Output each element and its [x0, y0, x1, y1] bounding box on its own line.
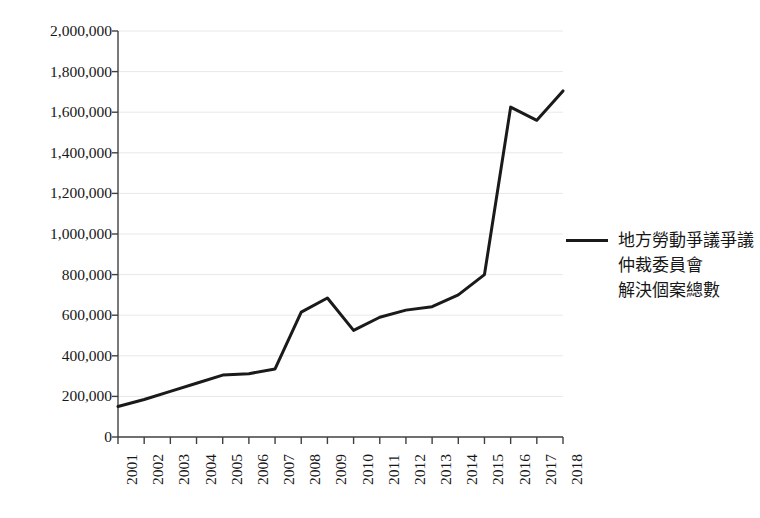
gridlines: [118, 31, 563, 396]
x-axis-ticks: [118, 437, 563, 444]
line-chart: 0200,000400,000600,000800,0001,000,0001,…: [0, 0, 760, 518]
legend-series-label: 地方勞動爭議爭議 仲裁委員會 解決個案總數: [618, 228, 758, 303]
series-line: [118, 91, 563, 407]
legend-line-marker: [566, 239, 610, 245]
legend-label-line-3: 解決個案總數: [618, 278, 758, 303]
legend-label-line-1: 地方勞動爭議爭議: [618, 228, 758, 253]
legend-label-line-2: 仲裁委員會: [618, 253, 758, 278]
data-series-line: [118, 91, 563, 407]
y-axis-ticks: [112, 31, 118, 437]
